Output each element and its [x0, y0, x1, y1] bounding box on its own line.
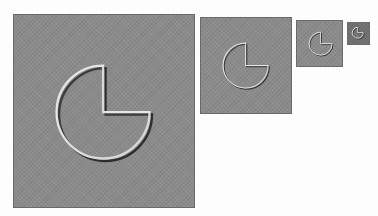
pie-shape-icon	[14, 15, 194, 207]
pie-shape-icon	[297, 21, 342, 66]
panel-scale-1	[13, 14, 195, 208]
pie-shape-icon	[201, 18, 291, 113]
panel-scale-4	[347, 22, 370, 45]
panel-scale-2	[200, 17, 292, 114]
panel-scale-3	[296, 20, 343, 67]
pie-shape-icon	[348, 23, 369, 44]
